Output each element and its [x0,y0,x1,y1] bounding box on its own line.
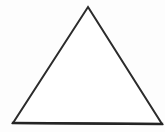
triangle-shape [13,7,162,124]
figure-canvas: Triangle [0,0,165,132]
triangle-base-edge [13,123,162,124]
triangle-figure [0,0,165,132]
